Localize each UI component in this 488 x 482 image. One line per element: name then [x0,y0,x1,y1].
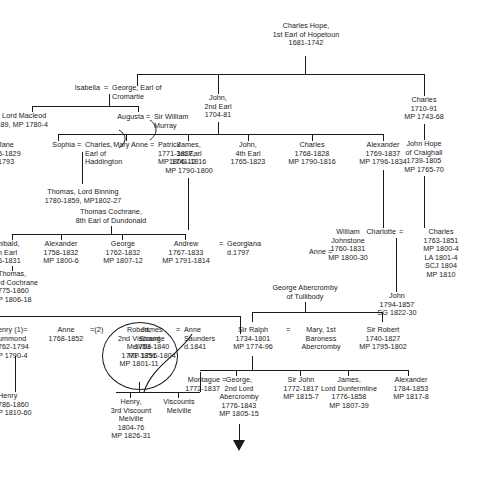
node-isabella: Isabella [20,84,100,93]
connector-v-root-mid [218,74,219,94]
node-sophia: Sophia [30,141,75,150]
node-charlotte: Charlotte [340,228,396,237]
node-line: Charles 1763-1851 MP 1800-4 LA 1801-4 SC… [408,228,474,280]
node-line: 1768-1852 [40,335,92,344]
node-line: Henry, 3rd Viscount Melville 1804-76 MP … [100,398,162,441]
node-line: Henry 786-1860 P 1810-60 [0,392,54,418]
connector-v-ralph [252,312,253,322]
node-line: George 1762-1832 MP 1807-12 [88,240,158,266]
node-henry-3rd-viscount: Henry, 3rd Viscount Melville 1804-76 MP … [100,398,162,441]
node-line: Sir Ralph 1734-1801 MP 1774-96 [222,326,284,352]
connector-v-tullibody-down [305,302,306,312]
node-thomas-cochrane: Thomas Cochrane, 8th Earl of Dundonald [54,208,168,225]
node-james-3rd-earl: James, 3rd Earl 1741-1816 MP 1790-1800 [156,141,222,175]
node-line: Charlotte [340,228,396,237]
node-line: John 1794-1857 SG 1822-30 [366,292,428,318]
node-john-2nd-earl: John, 2nd Earl 1704-81 [188,94,248,120]
family-tree-diagram: Charles Hope, 1st Earl of Hopetoun 1681-… [0,0,488,482]
arrow-down-abercromby [233,440,245,451]
node-alexander-1784: Alexander 1784-1853 MP 1817-8 [378,376,444,402]
connector-h-root [137,74,424,75]
node-line: Alexander 1784-1853 MP 1817-8 [378,376,444,402]
marriage-symbol-ralph-mary: = [286,326,290,335]
node-line: , Lord Macleod -89, MP 1780-4 [0,112,88,129]
connector-v-craighall-down [424,176,425,228]
connector-v-root-right [424,74,425,96]
node-georgiana: Georgiana d.1797 [227,240,281,257]
node-sir-ralph: Sir Ralph 1734-1801 MP 1774-96 [222,326,284,352]
node-line: Andrew 1767-1833 MP 1791-1814 [152,240,220,266]
node-line: Charles 1710-91 MP 1743-68 [390,96,458,122]
node-line: John Hope of Craighall 1739-1805 MP 1765… [390,140,458,174]
node-john-1794: John 1794-1857 SG 1822-30 [366,292,428,318]
node-line: Thomas, rd Cochrane 775-1860 P 1806-18 [0,270,58,304]
node-viscounts-melville: Viscounts Melville [156,398,202,415]
node-line: Thomas Cochrane, 8th Earl of Dundonald [54,208,168,225]
connector-h-cromartie-children [32,106,138,107]
node-charles-1768: Charles 1768-1828 MP 1790-1816 [276,141,348,167]
connector-v-henry1-down [15,356,16,392]
connector-curve-patrick [116,130,136,150]
node-line: Mary, 1st Baroness Abercromby [292,326,350,352]
node-line: Charles 1768-1828 MP 1790-1816 [276,141,348,167]
connector-v-root [305,56,306,74]
node-line: Alexander 1758-1832 MP 1800-6 [26,240,96,266]
node-john-4th-earl: John, 4th Earl 1765-1823 [218,141,278,167]
connector-h-cochrane-children [12,234,185,235]
node-george-abercromby-tullibody: George Abercromby of Tullibody [243,284,367,301]
connector-v-cochrane-down [111,226,112,234]
node-thomas-lord-cochrane: Thomas, rd Cochrane 775-1860 P 1806-18 [0,270,58,304]
node-line: George, 2nd Lord Abercromby 1776-1843 MP… [206,376,272,419]
node-line: James, Lord Dunfermline 1776-1858 MP 180… [310,376,388,410]
node-charles-1763: Charles 1763-1851 MP 1800-4 LA 1801-4 SC… [408,228,474,280]
marriage-symbol-andrew-georgiana: = [219,240,223,249]
node-line: John, 4th Earl 1765-1823 [218,141,278,167]
node-line: James, 3rd Earl 1741-1816 MP 1790-1800 [156,141,222,175]
connector-v-charlotte-down [396,238,397,292]
node-anne-1768: Anne 1768-1852 [40,326,92,343]
connector-v-haddington [82,152,83,184]
node-augusta: Augusta [92,113,144,122]
node-alexander-1758: Alexander 1758-1832 MP 1800-6 [26,240,96,266]
node-james-lord-dunfermline: James, Lord Dunfermline 1776-1858 MP 180… [310,376,388,410]
node-george-2nd-lord-abercromby: George, 2nd Lord Abercromby 1776-1843 MP… [206,376,272,419]
connector-h-anne-row [0,316,240,317]
node-andrew-1767: Andrew 1767-1833 MP 1791-1814 [152,240,220,266]
node-line: Sophia [30,141,75,150]
node-sir-robert-1740: Sir Robert 1740-1827 MP 1795-1802 [352,326,414,352]
node-line: Georgiana d.1797 [227,240,281,257]
node-george-1762: George 1762-1832 MP 1807-12 [88,240,158,266]
node-line: Thomas, Lord Binning 1780-1859, MP1802-2… [22,188,144,205]
connector-h-abercromby-children [200,370,408,371]
connector-v-james3-down [188,178,189,230]
node-charles-1710: Charles 1710-91 MP 1743-68 [390,96,458,122]
connector-v-charles1710-down [424,124,425,140]
marriage-symbol-anne-2: =(2) [90,326,103,335]
connector-v-john2-down [218,122,219,134]
node-line: Augusta [92,113,144,122]
node-thomas-lord-binning: Thomas, Lord Binning 1780-1859, MP1802-2… [22,188,144,205]
node-mary-1st-baroness: Mary, 1st Baroness Abercromby [292,326,350,352]
connector-h-john2-children [58,134,383,135]
node-line: Viscounts Melville [156,398,202,415]
node-henry-1786: Henry 786-1860 P 1810-60 [0,392,54,418]
connector-v-ralph-down [252,356,253,370]
node-line: Charles Hope, 1st Earl of Hopetoun 1681-… [236,22,376,48]
marriage-symbol-charlotte-charles: = [399,228,403,237]
marriage-symbol-sophia-charles: = [77,141,81,150]
connector-v-isabella [109,94,110,106]
node-lord-macleod: , Lord Macleod -89, MP 1780-4 [0,112,88,129]
node-line: Sir Robert 1740-1827 MP 1795-1802 [352,326,414,352]
node-line: John, 2nd Earl 1704-81 [188,94,248,120]
node-line: Isabella [20,84,100,93]
node-charles-hope-1st-earl: Charles Hope, 1st Earl of Hopetoun 1681-… [236,22,376,48]
marriage-symbol-maryanne-patrick: = [150,141,154,150]
connector-h-tullibody-children [252,312,382,313]
marriage-symbol-isabella-george: = [104,84,108,93]
connector-curve-murray [146,120,168,142]
connector-v-robert1740 [382,312,383,322]
connector-v-alexander1769-down [383,170,384,228]
node-john-hope-craighall: John Hope of Craighall 1739-1805 MP 1765… [390,140,458,174]
node-line: George Abercromby of Tullibody [243,284,367,301]
